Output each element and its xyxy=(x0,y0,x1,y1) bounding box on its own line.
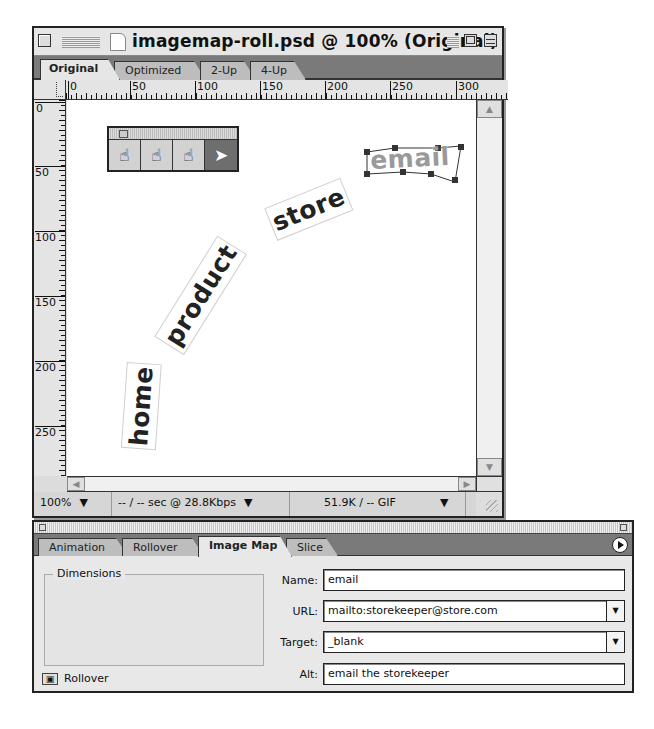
image-map-tool-palette: ☝ ☝ ☝ ➤ xyxy=(107,126,239,172)
ruler-label: 100 xyxy=(195,81,218,100)
target-field[interactable]: _blank xyxy=(328,635,364,648)
email-image-map-hotspot[interactable]: email xyxy=(363,144,473,180)
close-box-icon[interactable] xyxy=(38,34,51,47)
title-bar[interactable]: imagemap-roll.psd @ 100% (Original) xyxy=(34,28,502,56)
ruler-label: 50 xyxy=(35,166,66,178)
palette-drag-bar[interactable] xyxy=(109,128,237,140)
file-size-popup[interactable]: 51.9K / -- GIF▼ xyxy=(290,492,466,516)
canvas-word-store[interactable]: store xyxy=(268,182,349,237)
rectangle-image-map-tool-icon[interactable]: ☝ xyxy=(109,140,141,170)
window-title: imagemap-roll.psd @ 100% (Original) xyxy=(132,31,498,51)
scroll-corner xyxy=(476,476,502,492)
panel-close-icon[interactable] xyxy=(39,524,46,531)
dimensions-label: Dimensions xyxy=(53,567,125,580)
panel-tabs: Animation Rollover Image Map Slice xyxy=(34,534,632,556)
tab-optimized[interactable]: Optimized xyxy=(114,61,206,80)
tab-2-up[interactable]: 2-Up xyxy=(200,61,256,80)
ruler-label: 200 xyxy=(35,361,66,373)
canvas-word-home[interactable]: home xyxy=(124,365,159,447)
scroll-up-arrow-icon[interactable]: ▲ xyxy=(477,100,502,118)
url-dropdown-arrow-icon[interactable]: ▼ xyxy=(606,601,624,621)
ruler-label: 0 xyxy=(68,81,77,100)
target-combo[interactable]: _blank ▼ xyxy=(323,631,625,653)
alt-row: Alt: email the storekeeper xyxy=(270,662,625,686)
alt-field[interactable]: email the storekeeper xyxy=(323,663,625,685)
download-time-popup[interactable]: -- / -- sec @ 28.8Kbps▼ xyxy=(112,492,290,516)
ruler-label: 300 xyxy=(456,81,479,100)
rollover-button[interactable]: ▣ Rollover xyxy=(42,672,109,685)
scroll-right-arrow-icon[interactable]: ▶ xyxy=(458,477,476,491)
file-size: 51.9K / -- GIF xyxy=(324,496,396,509)
ruler-label: 0 xyxy=(35,102,66,114)
horizontal-ruler[interactable]: 0 50 100 150 200 250 300 xyxy=(66,80,508,100)
image-canvas[interactable]: ☝ ☝ ☝ ➤ home product store email xyxy=(67,100,476,476)
ruler-origin[interactable] xyxy=(34,80,66,100)
target-dropdown-arrow-icon[interactable]: ▼ xyxy=(606,632,624,652)
ruler-label: 50 xyxy=(130,81,146,100)
status-bar: 100%▼ -- / -- sec @ 28.8Kbps▼ 51.9K / --… xyxy=(34,492,476,516)
tab-rollover[interactable]: Rollover xyxy=(122,538,204,556)
target-label: Target: xyxy=(270,636,318,649)
dropdown-arrow-icon: ▼ xyxy=(79,496,87,509)
document-icon xyxy=(110,33,126,51)
name-label: Name: xyxy=(270,574,318,587)
name-field[interactable]: email xyxy=(323,569,625,591)
ruler-ticks xyxy=(59,100,65,476)
download-time: -- / -- sec @ 28.8Kbps xyxy=(118,496,236,509)
vertical-scrollbar[interactable]: ▲ ▼ xyxy=(476,100,502,476)
tab-animation[interactable]: Animation xyxy=(38,538,128,556)
dimensions-group: Dimensions xyxy=(44,574,264,666)
title-bar-stripes xyxy=(62,36,100,48)
horizontal-scrollbar[interactable]: ◀ ▶ xyxy=(67,476,476,492)
name-row: Name: email xyxy=(270,568,625,592)
tab-original[interactable]: Original xyxy=(40,59,120,80)
panel-menu-arrow-icon[interactable] xyxy=(612,537,628,553)
ruler-label: 200 xyxy=(325,81,348,100)
zoom-level: 100% xyxy=(40,496,71,509)
dropdown-arrow-icon: ▼ xyxy=(244,496,252,509)
image-map-panel: Animation Rollover Image Map Slice Dimen… xyxy=(32,520,634,693)
canvas-word-product[interactable]: product xyxy=(158,239,243,351)
rollover-icon: ▣ xyxy=(42,673,58,685)
vertical-ruler[interactable]: 0 50 100 150 200 250 xyxy=(34,100,66,476)
panel-collapse-icon[interactable] xyxy=(620,524,627,531)
ruler-label: 250 xyxy=(390,81,413,100)
ruler-label: 100 xyxy=(35,231,66,243)
rollover-label: Rollover xyxy=(64,672,109,685)
alt-label: Alt: xyxy=(270,668,318,681)
tab-slice[interactable]: Slice xyxy=(286,538,338,556)
canvas-word-email: email xyxy=(369,142,450,175)
tab-4-up[interactable]: 4-Up xyxy=(250,61,306,80)
dropdown-arrow-icon: ▼ xyxy=(440,496,448,509)
zoom-box-icon[interactable] xyxy=(464,34,477,47)
collapse-box-icon[interactable] xyxy=(484,34,497,47)
url-field[interactable]: mailto:storekeeper@store.com xyxy=(328,604,498,617)
scroll-down-arrow-icon[interactable]: ▼ xyxy=(477,458,502,476)
document-window: imagemap-roll.psd @ 100% (Original) Orig… xyxy=(32,26,504,518)
title-bar-stripes xyxy=(447,36,459,48)
view-tabs: Original Optimized 2-Up 4-Up xyxy=(34,56,502,80)
zoom-level-popup[interactable]: 100%▼ xyxy=(34,492,112,516)
ruler-label: 150 xyxy=(260,81,283,100)
circle-image-map-tool-icon[interactable]: ☝ xyxy=(141,140,173,170)
polygon-image-map-tool-icon[interactable]: ☝ xyxy=(173,140,205,170)
scroll-left-arrow-icon[interactable]: ◀ xyxy=(67,477,85,491)
url-row: URL: mailto:storekeeper@store.com ▼ xyxy=(270,599,625,623)
target-row: Target: _blank ▼ xyxy=(270,630,625,654)
url-label: URL: xyxy=(270,605,318,618)
ruler-label: 150 xyxy=(35,296,66,308)
resize-grip-icon[interactable] xyxy=(476,492,502,516)
tab-image-map[interactable]: Image Map xyxy=(198,536,292,557)
url-combo[interactable]: mailto:storekeeper@store.com ▼ xyxy=(323,600,625,622)
panel-title-bar[interactable] xyxy=(34,522,632,534)
ruler-label: 250 xyxy=(35,426,66,438)
image-map-select-tool-icon[interactable]: ➤ xyxy=(205,140,237,170)
